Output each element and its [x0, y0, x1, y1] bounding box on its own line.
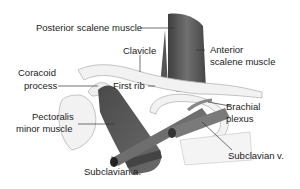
label-pectoralis-minor-line2: minor muscle — [16, 123, 73, 134]
label-brachial-plexus-line2: plexus — [226, 113, 253, 124]
label-coracoid-line1: Coracoid — [18, 67, 56, 78]
label-first-rib: First rib — [113, 80, 145, 91]
label-clavicle: Clavicle — [123, 45, 156, 56]
pectoralis-minor-muscle — [98, 86, 162, 176]
label-pectoralis-minor-line1: Pectoralis — [32, 111, 74, 122]
label-subclavian-artery: Subclavian a. — [84, 166, 141, 177]
label-posterior-scalene-muscle: Posterior scalene muscle — [36, 22, 142, 33]
label-coracoid-line2: process — [24, 80, 57, 91]
label-anterior-scalene-line1: Anterior — [210, 44, 243, 55]
label-subclavian-vein: Subclavian v. — [228, 150, 284, 161]
label-brachial-plexus-line1: Brachial — [226, 101, 260, 112]
label-anterior-scalene-line2: scalene muscle — [210, 56, 275, 67]
anatomy-figure: Posterior scalene muscle Clavicle Anteri… — [0, 0, 300, 189]
